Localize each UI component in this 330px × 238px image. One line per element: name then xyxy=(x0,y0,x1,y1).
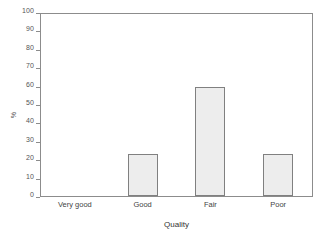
y-axis-tick-label: 100 xyxy=(22,7,34,14)
y-axis-tick-label: 40 xyxy=(26,117,34,124)
y-axis-tick-label: 70 xyxy=(26,62,34,69)
y-axis-tick-label: 50 xyxy=(26,99,34,106)
x-axis-tick-label: Poor xyxy=(270,199,286,211)
bar-slot xyxy=(177,14,245,196)
x-axis-title: Quality xyxy=(40,220,313,230)
x-axis-tick-label: Fair xyxy=(204,199,217,211)
y-axis-tick-label: 0 xyxy=(30,191,34,198)
x-axis-tick-label: Good xyxy=(133,199,151,211)
bar-slot xyxy=(109,14,177,196)
y-axis-tick-label: 90 xyxy=(26,25,34,32)
y-axis-tick-label: 80 xyxy=(26,44,34,51)
bars-layer xyxy=(41,14,312,196)
x-axis: Very goodGoodFairPoor xyxy=(41,199,312,213)
y-axis-tick-label: 20 xyxy=(26,154,34,161)
y-axis-tick-label: 10 xyxy=(26,173,34,180)
x-axis-tick-label: Very good xyxy=(58,199,92,211)
bar-slot xyxy=(41,14,109,196)
y-axis: 0102030405060708090100 xyxy=(0,13,40,197)
y-axis-tick-label: 30 xyxy=(26,136,34,143)
bar-chart: 0102030405060708090100 % Very goodGoodFa… xyxy=(0,0,330,238)
bar[interactable] xyxy=(195,87,225,196)
y-axis-tick-mark xyxy=(36,197,40,198)
y-axis-title: % xyxy=(4,107,24,123)
bar-slot xyxy=(244,14,312,196)
bar[interactable] xyxy=(263,154,293,196)
bar[interactable] xyxy=(128,154,158,196)
y-axis-tick-label: 60 xyxy=(26,81,34,88)
